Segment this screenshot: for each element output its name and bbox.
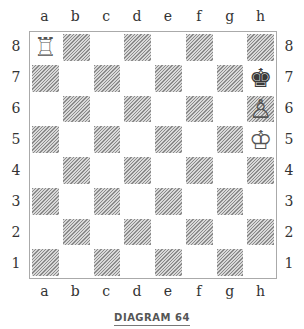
square-e6	[153, 94, 184, 125]
square-g8	[215, 32, 246, 63]
square-c6	[92, 94, 123, 125]
square-c2	[92, 217, 123, 248]
square-f7	[184, 63, 215, 94]
square-h2	[245, 217, 276, 248]
square-a7	[30, 63, 61, 94]
square-e4	[153, 155, 184, 186]
square-h5: ♔	[245, 124, 276, 155]
chess-board: ♖♚♙♔	[29, 31, 277, 279]
file-label-g: g	[214, 8, 245, 24]
file-label-a: a	[29, 8, 60, 24]
square-c3	[92, 186, 123, 217]
white-pawn-icon: ♙	[249, 96, 272, 122]
file-label-f: f	[183, 283, 214, 299]
rank-label-7: 7	[279, 62, 299, 93]
square-e3	[153, 186, 184, 217]
square-d1	[122, 247, 153, 278]
rank-label-6: 6	[6, 93, 26, 124]
rank-label-5: 5	[279, 124, 299, 155]
rank-labels-right: 8 7 6 5 4 3 2 1	[279, 31, 299, 278]
square-a5	[30, 124, 61, 155]
square-c4	[92, 155, 123, 186]
rank-label-3: 3	[279, 185, 299, 216]
rank-label-5: 5	[6, 124, 26, 155]
square-b1	[61, 247, 92, 278]
square-c5	[92, 124, 123, 155]
square-f6	[184, 94, 215, 125]
square-c1	[92, 247, 123, 278]
square-d4	[122, 155, 153, 186]
square-d8	[122, 32, 153, 63]
square-e7	[153, 63, 184, 94]
file-label-b: b	[60, 8, 91, 24]
caption-text: DIAGRAM 64	[114, 312, 190, 326]
file-label-g: g	[214, 283, 245, 299]
square-e1	[153, 247, 184, 278]
square-d3	[122, 186, 153, 217]
file-labels-top: a b c d e f g h	[29, 8, 276, 24]
square-d2	[122, 217, 153, 248]
diagram-caption: DIAGRAM 64	[0, 306, 304, 325]
white-king-icon: ♔	[249, 127, 272, 153]
file-label-f: f	[183, 8, 214, 24]
square-h3	[245, 186, 276, 217]
square-b3	[61, 186, 92, 217]
square-a6	[30, 94, 61, 125]
square-g2	[215, 217, 246, 248]
square-g4	[215, 155, 246, 186]
square-f3	[184, 186, 215, 217]
square-h4	[245, 155, 276, 186]
square-f1	[184, 247, 215, 278]
square-a4	[30, 155, 61, 186]
file-label-c: c	[91, 8, 122, 24]
square-f5	[184, 124, 215, 155]
square-b4	[61, 155, 92, 186]
square-g1	[215, 247, 246, 278]
square-g3	[215, 186, 246, 217]
square-h1	[245, 247, 276, 278]
rank-label-1: 1	[6, 247, 26, 278]
square-a1	[30, 247, 61, 278]
square-d7	[122, 63, 153, 94]
file-label-b: b	[60, 283, 91, 299]
rank-label-7: 7	[6, 62, 26, 93]
square-g6	[215, 94, 246, 125]
square-b7	[61, 63, 92, 94]
square-b5	[61, 124, 92, 155]
square-h6: ♙	[245, 94, 276, 125]
square-a3	[30, 186, 61, 217]
file-label-d: d	[122, 283, 153, 299]
square-e8	[153, 32, 184, 63]
rank-label-8: 8	[6, 31, 26, 62]
square-e5	[153, 124, 184, 155]
rank-label-4: 4	[6, 155, 26, 186]
rank-label-2: 2	[279, 216, 299, 247]
white-rook-icon: ♖	[34, 34, 57, 60]
rank-labels-left: 8 7 6 5 4 3 2 1	[6, 31, 26, 278]
rank-label-3: 3	[6, 185, 26, 216]
square-g5	[215, 124, 246, 155]
rank-label-6: 6	[279, 93, 299, 124]
rank-label-4: 4	[279, 155, 299, 186]
file-label-a: a	[29, 283, 60, 299]
square-d5	[122, 124, 153, 155]
square-b8	[61, 32, 92, 63]
square-a2	[30, 217, 61, 248]
square-c8	[92, 32, 123, 63]
rank-label-2: 2	[6, 216, 26, 247]
file-labels-bottom: a b c d e f g h	[29, 283, 276, 299]
file-label-c: c	[91, 283, 122, 299]
square-f8	[184, 32, 215, 63]
square-f4	[184, 155, 215, 186]
square-b6	[61, 94, 92, 125]
file-label-h: h	[245, 8, 276, 24]
square-h8	[245, 32, 276, 63]
rank-label-1: 1	[279, 247, 299, 278]
square-b2	[61, 217, 92, 248]
file-label-e: e	[153, 283, 184, 299]
square-a8: ♖	[30, 32, 61, 63]
square-e2	[153, 217, 184, 248]
file-label-d: d	[122, 8, 153, 24]
square-h7: ♚	[245, 63, 276, 94]
square-g7	[215, 63, 246, 94]
